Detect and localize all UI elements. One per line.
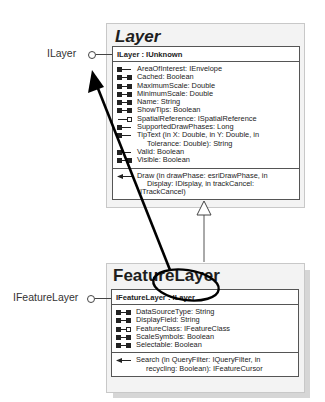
annotation-arrow-line — [97, 86, 170, 270]
annotation-overlay — [0, 0, 325, 402]
annotation-arrowhead-icon — [88, 70, 104, 93]
annotation-ellipse — [151, 266, 221, 305]
